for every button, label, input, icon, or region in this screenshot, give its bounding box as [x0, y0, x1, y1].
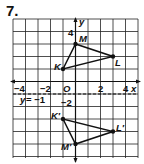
svg-text:y: y [19, 94, 26, 105]
svg-text:= −1: = −1 [26, 94, 46, 105]
axes [11, 19, 140, 162]
svg-text:4: 4 [123, 83, 129, 94]
x-axis-arrow-right-icon [136, 80, 141, 84]
svg-text:2: 2 [98, 83, 103, 94]
svg-text:4: 4 [68, 27, 74, 38]
y-axis-arrow-down-icon [74, 158, 78, 163]
svg-text:K′: K′ [51, 110, 61, 121]
svg-text:L′: L′ [116, 122, 125, 133]
svg-text:K: K [54, 61, 62, 72]
coordinate-graph: −4 −2 O 2 4 x 4 y −2 y = −1 K M L K′ M′ … [0, 0, 144, 164]
svg-text:O: O [63, 83, 71, 94]
svg-text:y: y [78, 16, 85, 27]
svg-text:−2: −2 [61, 97, 72, 108]
svg-text:L: L [115, 57, 121, 68]
y-axis-arrow-icon [74, 17, 78, 22]
svg-text:M: M [79, 33, 88, 44]
svg-text:x: x [130, 83, 137, 94]
svg-text:M′: M′ [61, 141, 72, 152]
svg-text:−4: −4 [14, 83, 26, 94]
svg-text:−2: −2 [40, 83, 51, 94]
